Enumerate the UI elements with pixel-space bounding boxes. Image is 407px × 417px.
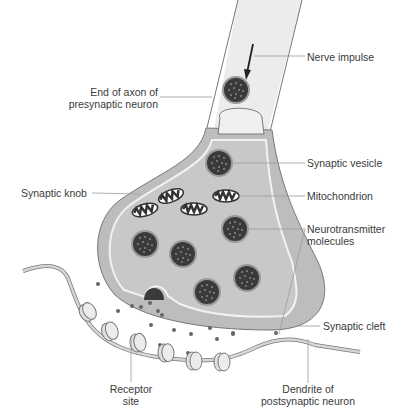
label-neurotransmitter: Neurotransmitter molecules: [307, 223, 385, 247]
label-axon-end: End of axon of presynaptic neuron: [60, 86, 158, 110]
label-synaptic-cleft: Synaptic cleft: [323, 320, 385, 332]
label-synaptic-knob: Synaptic knob: [21, 187, 87, 199]
label-synaptic-vesicle: Synaptic vesicle: [307, 157, 382, 169]
label-dendrite: Dendrite of postsynaptic neuron: [258, 383, 358, 407]
label-mitochondrion: Mitochondrion: [307, 190, 373, 202]
label-nerve-impulse: Nerve impulse: [307, 51, 374, 63]
label-receptor-site: Receptor site: [101, 383, 161, 407]
